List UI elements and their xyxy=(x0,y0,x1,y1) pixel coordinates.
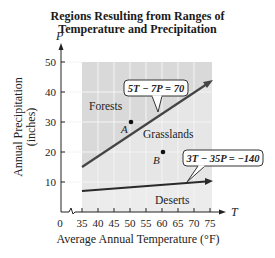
chart-canvas: 0 35 40 45 50 55 60 65 70 75 10 20 30 40… xyxy=(0,0,275,258)
region-label-deserts: Deserts xyxy=(155,194,190,206)
point-a-label: A xyxy=(120,123,128,135)
point-b xyxy=(161,150,166,155)
svg-text:(inches): (inches) xyxy=(24,108,38,147)
svg-text:Annual Precipitation: Annual Precipitation xyxy=(11,77,25,177)
svg-text:35: 35 xyxy=(77,217,89,229)
svg-text:10: 10 xyxy=(45,176,57,188)
y-axis-label: Annual Precipitation (inches) xyxy=(11,77,38,177)
svg-text:45: 45 xyxy=(109,217,121,229)
point-b-label: B xyxy=(153,154,160,166)
svg-text:70: 70 xyxy=(189,217,201,229)
y-axis-variable: P xyxy=(55,29,64,43)
svg-text:3T − 35P = −140: 3T − 35P = −140 xyxy=(185,153,260,164)
region-label-forests: Forests xyxy=(89,100,123,112)
svg-text:0: 0 xyxy=(57,217,63,229)
x-axis-variable: T xyxy=(231,205,239,219)
x-axis-label: Average Annual Temperature (°F) xyxy=(56,232,219,246)
svg-text:40: 40 xyxy=(45,86,57,98)
svg-text:55: 55 xyxy=(141,217,153,229)
svg-text:60: 60 xyxy=(157,217,169,229)
svg-text:50: 50 xyxy=(45,56,57,68)
svg-text:50: 50 xyxy=(125,217,137,229)
region-label-grasslands: Grasslands xyxy=(143,128,194,140)
svg-text:5T − 7P = 70: 5T − 7P = 70 xyxy=(128,83,185,94)
point-a xyxy=(129,120,134,125)
svg-text:20: 20 xyxy=(45,146,57,158)
svg-text:30: 30 xyxy=(45,116,57,128)
svg-text:65: 65 xyxy=(173,217,185,229)
svg-text:40: 40 xyxy=(93,217,105,229)
svg-text:75: 75 xyxy=(205,217,217,229)
